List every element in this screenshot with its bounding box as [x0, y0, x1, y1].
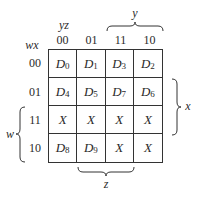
- row-header-0: 00: [26, 56, 44, 71]
- cell-r0-c0: D0: [49, 50, 77, 78]
- cell-r1-c0: D4: [49, 78, 77, 106]
- cell-r1-c3: D6: [134, 78, 162, 106]
- cell-r0-c1: D1: [77, 50, 105, 78]
- col-header-0: 00: [48, 33, 77, 48]
- row-header-2: 11: [26, 113, 44, 128]
- row-var-label: wx: [22, 38, 42, 53]
- cell-r0-c3: D2: [134, 50, 162, 78]
- cell-r2-c3: X: [134, 106, 162, 134]
- cell-r1-c1: D5: [77, 78, 105, 106]
- cell-r3-c3: X: [134, 134, 162, 162]
- row-header-1: 01: [26, 85, 44, 100]
- x-label: x: [182, 99, 194, 114]
- w-brace-icon: [16, 106, 26, 163]
- cell-r0-c2: D3: [106, 50, 134, 78]
- w-label: w: [4, 127, 16, 142]
- col-header-3: 10: [135, 33, 164, 48]
- z-brace-icon: [77, 167, 135, 177]
- x-brace-icon: [172, 78, 182, 136]
- z-label: z: [99, 177, 113, 192]
- kmap-grid: D0 D1 D3 D2 D4 D5 D7 D6 X X X X D8 D9 X …: [48, 49, 163, 163]
- cell-r2-c1: X: [77, 106, 105, 134]
- col-header-1: 01: [77, 33, 106, 48]
- cell-r1-c2: D7: [106, 78, 134, 106]
- y-label: y: [128, 6, 142, 21]
- cell-r3-c1: D9: [77, 134, 105, 162]
- cell-r2-c2: X: [106, 106, 134, 134]
- col-var-label: yz: [56, 18, 72, 33]
- row-header-3: 10: [26, 141, 44, 156]
- cell-r3-c2: X: [106, 134, 134, 162]
- cell-r3-c0: D8: [49, 134, 77, 162]
- y-brace-icon: [106, 22, 164, 32]
- cell-r2-c0: X: [49, 106, 77, 134]
- col-header-2: 11: [106, 33, 135, 48]
